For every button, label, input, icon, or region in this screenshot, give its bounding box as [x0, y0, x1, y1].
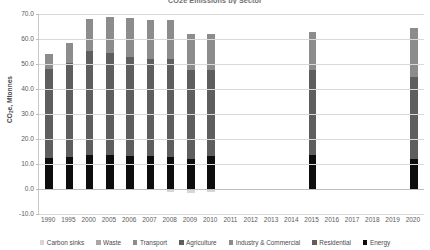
y-axis-title: CO2e, Mtonnes	[6, 70, 13, 130]
bar-segment[interactable]	[167, 59, 175, 156]
chart-container: CO2e Emissions by Sector CO2e, Mtonnes 7…	[0, 0, 430, 250]
x-axis-tick-label: 2016	[322, 216, 342, 223]
legend-item-label: Residential	[319, 239, 351, 246]
y-axis-tick-label: 0.0	[1, 185, 34, 192]
bar-segment[interactable]	[45, 54, 53, 70]
y-tick-mark	[36, 14, 39, 15]
bar-segment[interactable]	[309, 70, 317, 156]
legend-item[interactable]: Energy	[363, 239, 390, 246]
gridline	[39, 139, 424, 140]
gridline	[39, 39, 424, 40]
y-tick-mark	[36, 164, 39, 165]
x-axis-tick-label: 2012	[241, 216, 261, 223]
bar-segment[interactable]	[147, 156, 155, 189]
x-axis-tick-label: 1995	[58, 216, 78, 223]
y-tick-mark	[36, 139, 39, 140]
y-tick-mark	[36, 114, 39, 115]
legend-item-label: Transport	[140, 239, 167, 246]
y-axis-tick-label: 50.0	[1, 60, 34, 67]
x-axis-tick-label: 2008	[160, 216, 180, 223]
gridline	[39, 14, 424, 15]
chart-legend: Carbon sinksWasteTransportAgricultureInd…	[0, 237, 430, 248]
legend-swatch-icon	[40, 240, 45, 245]
bar-segment[interactable]	[86, 155, 94, 189]
x-axis-tick-label: 2006	[119, 216, 139, 223]
legend-swatch-icon	[363, 240, 368, 245]
legend-item-label: Energy	[370, 239, 390, 246]
x-axis-tick-label: 2017	[342, 216, 362, 223]
legend-item-label: Carbon sinks	[47, 239, 84, 246]
legend-item[interactable]: Waste	[96, 239, 121, 246]
x-axis-tick-label: 2010	[200, 216, 220, 223]
gridline	[39, 114, 424, 115]
legend-swatch-icon	[96, 240, 101, 245]
bar-segment[interactable]	[410, 28, 418, 77]
x-axis-tick-label: 2007	[139, 216, 159, 223]
legend-swatch-icon	[179, 240, 184, 245]
x-axis-tick-label: 2013	[261, 216, 281, 223]
x-axis-tick-label: 2000	[79, 216, 99, 223]
bar-segment[interactable]	[66, 43, 74, 63]
y-axis-tick-label: -10.0	[1, 210, 34, 217]
y-tick-mark	[36, 64, 39, 65]
legend-item-label: Industry & Commercial	[236, 239, 301, 246]
y-tick-mark	[36, 89, 39, 90]
bar-segment[interactable]	[126, 18, 134, 57]
x-axis-tick-label: 2018	[362, 216, 382, 223]
gridline	[39, 189, 424, 190]
x-axis-tick-label: 2014	[281, 216, 301, 223]
legend-item[interactable]: Industry & Commercial	[229, 239, 301, 246]
x-axis-tick-label: 2015	[301, 216, 321, 223]
gridline	[39, 89, 424, 90]
y-axis-tick-label: 20.0	[1, 135, 34, 142]
bar-segment[interactable]	[106, 17, 114, 53]
legend-item-label: Agriculture	[186, 239, 217, 246]
bar-segment[interactable]	[207, 156, 215, 190]
bar-segment[interactable]	[207, 70, 215, 156]
bar-segment[interactable]	[66, 63, 74, 156]
y-axis-tick-label: 30.0	[1, 110, 34, 117]
y-tick-mark	[36, 189, 39, 190]
y-axis-tick-label: 40.0	[1, 85, 34, 92]
bar-segment[interactable]	[66, 157, 74, 190]
legend-swatch-icon	[133, 240, 138, 245]
plot-area: 70.060.050.040.030.020.010.00.0-10.0	[38, 14, 424, 214]
bar-segment[interactable]	[126, 57, 134, 156]
bar-segment[interactable]	[126, 156, 134, 190]
gridline	[39, 64, 424, 65]
y-axis-tick-label: 70.0	[1, 10, 34, 17]
bar-segment[interactable]	[45, 158, 53, 189]
x-axis-tick-label: 2005	[99, 216, 119, 223]
bar-segment[interactable]	[106, 155, 114, 189]
bar-segment[interactable]	[309, 155, 317, 189]
bar-segment[interactable]	[147, 59, 155, 156]
gridline	[39, 214, 424, 215]
x-axis-tick-label: 2011	[220, 216, 240, 223]
bar-segment[interactable]	[86, 19, 94, 51]
legend-item[interactable]: Residential	[312, 239, 351, 246]
x-axis-tick-label: 2009	[180, 216, 200, 223]
x-axis-tick-label: 1990	[38, 216, 58, 223]
y-axis-tick-label: 60.0	[1, 35, 34, 42]
legend-item[interactable]: Agriculture	[179, 239, 217, 246]
bar-segment[interactable]	[167, 157, 175, 190]
legend-swatch-icon	[229, 240, 234, 245]
legend-item[interactable]: Carbon sinks	[40, 239, 84, 246]
chart-title: CO2e Emissions by Sector	[0, 0, 430, 4]
gridline	[39, 164, 424, 165]
x-axis-labels: 1990199520002005200620072008200920102011…	[38, 216, 424, 228]
x-axis-tick-label: 2019	[382, 216, 402, 223]
y-tick-mark	[36, 214, 39, 215]
legend-swatch-icon	[312, 240, 317, 245]
legend-item-label: Waste	[103, 239, 121, 246]
y-tick-mark	[36, 39, 39, 40]
y-axis-tick-label: 10.0	[1, 160, 34, 167]
legend-item[interactable]: Transport	[133, 239, 167, 246]
x-axis-tick-label: 2020	[403, 216, 423, 223]
